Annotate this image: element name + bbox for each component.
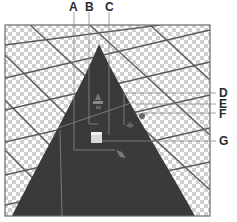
- x-axis-scale-handle[interactable]: [139, 113, 145, 119]
- callout-label-g: G: [219, 135, 228, 147]
- diagram-canvas: [0, 0, 237, 222]
- y-axis-scale-handle[interactable]: [93, 101, 103, 104]
- callout-label-a: A: [69, 1, 78, 13]
- callout-label-f: F: [219, 108, 226, 120]
- callout-label-c: C: [105, 1, 114, 13]
- callout-label-b: B: [85, 1, 94, 13]
